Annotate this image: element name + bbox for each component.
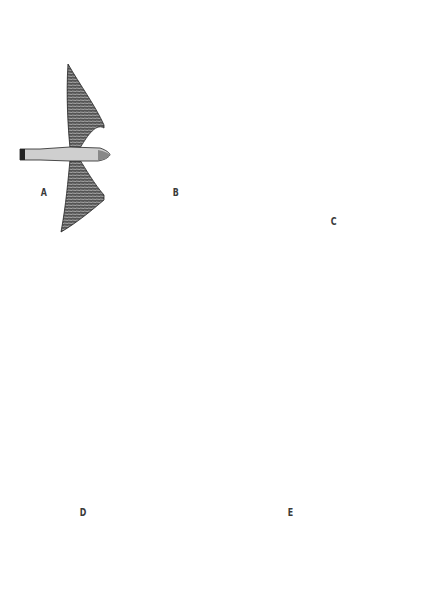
label-d: D xyxy=(80,506,87,519)
falcon-a-illustration xyxy=(20,64,110,232)
label-e: E xyxy=(288,506,293,519)
label-b: B xyxy=(173,186,179,199)
label-c: C xyxy=(331,215,337,228)
falcon-plate xyxy=(0,0,445,597)
label-a: A xyxy=(41,186,47,199)
